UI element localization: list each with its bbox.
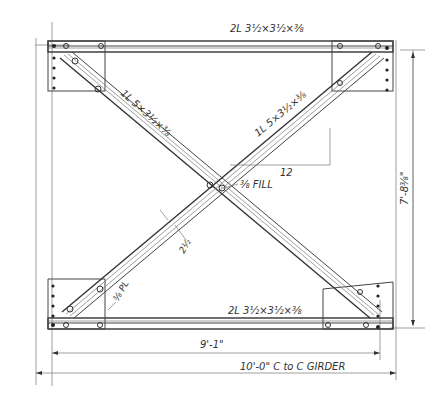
height-dimension — [411, 52, 415, 326]
bottom-chord-label: 2L 3½×3½×⅜ — [228, 305, 302, 316]
fill-label: ⅜ FILL — [240, 179, 273, 190]
plate-leader — [108, 302, 116, 310]
top-chord-label: 2L 3½×3½×⅜ — [230, 23, 304, 34]
diagonal-label-right: 1L 5×3½×⅜ — [252, 89, 308, 139]
extension-lines — [35, 22, 425, 386]
height-label: 7'-8⅜" — [399, 172, 410, 205]
slope-label: 12 — [280, 167, 293, 178]
top-chord — [48, 41, 393, 52]
plate-label: ⅜ PL — [111, 279, 131, 303]
overall-span-label: 10'-0" C to C GIRDER — [240, 361, 345, 372]
slope-indicator — [230, 128, 330, 165]
inner-span-label: 9'-1" — [200, 339, 224, 350]
fill-leader — [224, 184, 238, 188]
bracing-drawing: 2L 3½×3½×⅜ 2L 3½×3½×⅜ 1L 5×3½×⅜ 1L 5×3½×… — [0, 0, 440, 399]
gauge-label: 2½ — [177, 237, 193, 255]
